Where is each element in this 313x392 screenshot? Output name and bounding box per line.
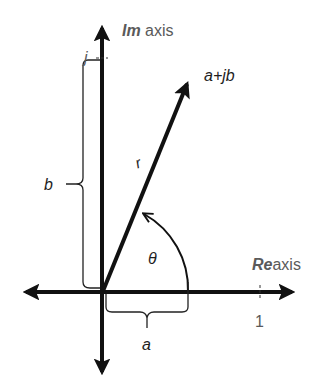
real-part-brace <box>106 282 188 328</box>
im-axis-label: Im axis <box>122 22 174 39</box>
magnitude-label: r <box>133 153 144 171</box>
imag-part-brace <box>66 60 100 288</box>
angle-label: θ <box>148 250 157 267</box>
real-unit-label: 1 <box>255 313 264 330</box>
vector-r <box>103 84 187 291</box>
point-label: a+jb <box>204 67 235 84</box>
complex-plane-diagram: Im axis j a+jb r θ Reaxis 1 b a <box>0 0 313 392</box>
real-part-label: a <box>142 336 151 353</box>
re-axis-label: Reaxis <box>252 256 301 273</box>
imag-part-label: b <box>44 176 53 193</box>
